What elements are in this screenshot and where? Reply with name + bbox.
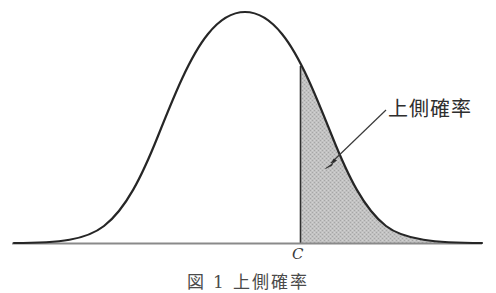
figure-caption: 図 1 上側確率 [0,271,496,293]
threshold-label-c: C [292,246,303,263]
shaded-tail-area [14,12,482,243]
annotation-arrow [326,110,387,169]
tail-probability-label: 上側確率 [388,96,472,122]
normal-curve [14,12,482,243]
